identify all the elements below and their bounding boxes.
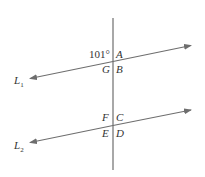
- angle-label-b: B: [116, 64, 123, 75]
- line-l1-left: [30, 62, 113, 79]
- line-l2-left: [30, 126, 113, 143]
- line-l1: [113, 46, 191, 62]
- angle-label-a: A: [116, 49, 123, 60]
- geometry-lines: [0, 0, 205, 177]
- angle-label-f: F: [102, 112, 109, 123]
- line-label-l2-subscript: 2: [20, 146, 24, 154]
- angle-label-e: E: [102, 128, 109, 139]
- diagram-canvas: 101° A G B F C E D L1 L2: [0, 0, 205, 177]
- line-label-l1-subscript: 1: [20, 81, 24, 89]
- angle-label-g: G: [102, 64, 110, 75]
- angle-label-d: D: [116, 128, 124, 139]
- line-label-l2: L2: [14, 140, 24, 151]
- angle-label-c: C: [116, 112, 123, 123]
- line-l2: [113, 110, 191, 126]
- line-label-l1: L1: [14, 75, 24, 86]
- angle-measure-101: 101°: [89, 49, 110, 60]
